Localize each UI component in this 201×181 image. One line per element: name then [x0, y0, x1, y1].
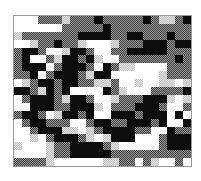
- mosaic-frame: [13, 15, 192, 167]
- mosaic-cell: [38, 16, 46, 24]
- mosaic-cell: [103, 158, 111, 166]
- mosaic-cell: [143, 24, 151, 32]
- mosaic-cell: [30, 79, 38, 87]
- mosaic-cell: [30, 71, 38, 79]
- mosaic-cell: [159, 119, 167, 127]
- mosaic-cell: [111, 16, 119, 24]
- mosaic-cell: [14, 142, 22, 150]
- mosaic-cell: [167, 71, 175, 79]
- mosaic-cell: [46, 79, 54, 87]
- mosaic-cell: [46, 71, 54, 79]
- mosaic-cell: [46, 24, 54, 32]
- mosaic-cell: [167, 24, 175, 32]
- mosaic-cell: [127, 127, 135, 135]
- mosaic-cell: [22, 95, 30, 103]
- mosaic-cell: [14, 63, 22, 71]
- mosaic-cell: [78, 150, 86, 158]
- mosaic-cell: [94, 55, 102, 63]
- mosaic-cell: [127, 103, 135, 111]
- mosaic-cell: [111, 48, 119, 56]
- mosaic-cell: [62, 71, 70, 79]
- mosaic-cell: [151, 16, 159, 24]
- mosaic-cell: [46, 119, 54, 127]
- mosaic-cell: [183, 103, 191, 111]
- mosaic-cell: [38, 24, 46, 32]
- mosaic-cell: [103, 127, 111, 135]
- mosaic-cell: [70, 127, 78, 135]
- mosaic-cell: [159, 71, 167, 79]
- mosaic-cell: [143, 71, 151, 79]
- mosaic-cell: [167, 111, 175, 119]
- mosaic-cell: [175, 71, 183, 79]
- mosaic-cell: [94, 48, 102, 56]
- mosaic-cell: [78, 55, 86, 63]
- mosaic-cell: [151, 32, 159, 40]
- mosaic-cell: [62, 119, 70, 127]
- mosaic-cell: [135, 119, 143, 127]
- mosaic-cell: [14, 127, 22, 135]
- mosaic-cell: [151, 119, 159, 127]
- mosaic-cell: [159, 79, 167, 87]
- mosaic-cell: [38, 32, 46, 40]
- mosaic-cell: [135, 40, 143, 48]
- mosaic-cell: [14, 71, 22, 79]
- mosaic-cell: [127, 24, 135, 32]
- mosaic-cell: [54, 158, 62, 166]
- mosaic-cell: [175, 40, 183, 48]
- mosaic-cell: [30, 87, 38, 95]
- mosaic-cell: [135, 63, 143, 71]
- mosaic-cell: [38, 158, 46, 166]
- mosaic-cell: [111, 55, 119, 63]
- mosaic-cell: [14, 150, 22, 158]
- mosaic-cell: [127, 158, 135, 166]
- mosaic-cell: [86, 24, 94, 32]
- mosaic-cell: [30, 150, 38, 158]
- mosaic-cell: [111, 71, 119, 79]
- mosaic-cell: [135, 16, 143, 24]
- mosaic-cell: [70, 24, 78, 32]
- mosaic-cell: [22, 71, 30, 79]
- mosaic-cell: [183, 150, 191, 158]
- mosaic-cell: [86, 16, 94, 24]
- mosaic-cell: [127, 16, 135, 24]
- mosaic-cell: [183, 55, 191, 63]
- mosaic-cell: [159, 87, 167, 95]
- mosaic-cell: [14, 134, 22, 142]
- mosaic-cell: [183, 158, 191, 166]
- mosaic-cell: [135, 150, 143, 158]
- mosaic-cell: [175, 95, 183, 103]
- mosaic-cell: [62, 158, 70, 166]
- mosaic-cell: [14, 158, 22, 166]
- mosaic-cell: [54, 24, 62, 32]
- mosaic-cell: [159, 48, 167, 56]
- mosaic-cell: [22, 142, 30, 150]
- mosaic-cell: [167, 87, 175, 95]
- mosaic-cell: [127, 48, 135, 56]
- mosaic-cell: [86, 134, 94, 142]
- mosaic-cell: [103, 103, 111, 111]
- mosaic-cell: [62, 79, 70, 87]
- mosaic-cell: [70, 63, 78, 71]
- mosaic-cell: [143, 158, 151, 166]
- mosaic-cell: [54, 150, 62, 158]
- mosaic-cell: [46, 48, 54, 56]
- mosaic-cell: [183, 127, 191, 135]
- mosaic-cell: [54, 127, 62, 135]
- mosaic-cell: [46, 142, 54, 150]
- mosaic-cell: [135, 103, 143, 111]
- mosaic-cell: [46, 158, 54, 166]
- mosaic-cell: [183, 32, 191, 40]
- mosaic-cell: [135, 158, 143, 166]
- mosaic-cell: [30, 63, 38, 71]
- mosaic-cell: [151, 158, 159, 166]
- mosaic-cell: [183, 142, 191, 150]
- mosaic-cell: [119, 127, 127, 135]
- mosaic-cell: [38, 71, 46, 79]
- mosaic-cell: [22, 103, 30, 111]
- mosaic-cell: [22, 48, 30, 56]
- mosaic-cell: [111, 95, 119, 103]
- mosaic-cell: [38, 103, 46, 111]
- mosaic-cell: [86, 55, 94, 63]
- mosaic-cell: [38, 127, 46, 135]
- mosaic-cell: [30, 134, 38, 142]
